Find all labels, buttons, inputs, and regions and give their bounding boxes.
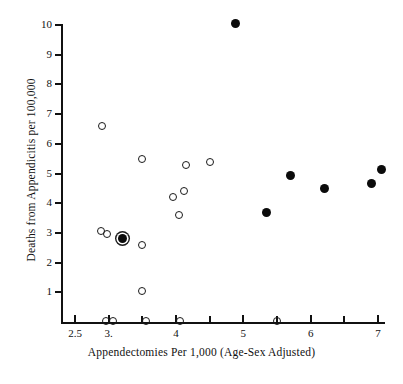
x-axis-tick [310,315,312,323]
data-point-open-circle [273,317,281,325]
data-point-open-circle [98,122,106,130]
y-axis-tick [55,291,62,293]
plot-area: 12345678910 2.53.4567 Appendectomies Per… [0,0,403,384]
x-axis-tick-label: 3. [89,327,129,339]
y-axis-tick-label-text: 10 [30,19,52,30]
x-axis-tick [377,315,379,323]
data-point-filled-circle [231,19,240,28]
y-axis-tick [55,24,62,26]
data-point-open-circle [206,158,214,166]
x-axis-tick-label: 7 [358,327,398,339]
x-axis-minor-tick [343,316,345,323]
data-point-open-circle [176,317,184,325]
data-point-open-circle [142,317,150,325]
y-axis-tick [55,143,62,145]
data-point-open-circle [109,317,117,325]
data-point-open-circle [138,155,146,163]
data-point-open-circle [182,161,190,169]
y-axis-tick [55,262,62,264]
y-axis-tick-label: 10 [26,19,52,30]
data-point-filled-circle [286,171,295,180]
x-axis-tick [242,315,244,323]
x-axis-tick [74,315,76,323]
data-point-open-circle [138,287,146,295]
data-point-filled-circle [367,179,376,188]
scatter-plot-figure: 12345678910 2.53.4567 Appendectomies Per… [0,0,403,384]
data-point-open-circle [169,193,177,201]
data-point-filled-circle [320,184,329,193]
data-point-filled-circle-with-open-ring [118,234,127,243]
x-axis-tick-label: 4 [156,327,196,339]
y-axis-tick [55,83,62,85]
data-point-open-circle [180,187,188,195]
y-axis-tick [55,202,62,204]
x-axis-origin-tick [61,315,63,323]
y-axis-tick [55,113,62,115]
x-axis-minor-tick [209,316,211,323]
data-point-open-circle [103,230,111,238]
y-axis-title: Deaths from Appendicitis per 100,000 [25,40,37,300]
data-point-filled-circle [262,208,271,217]
x-axis-title: Appendectomies Per 1,000 (Age-Sex Adjust… [0,346,403,358]
y-axis-tick [55,54,62,56]
x-axis-tick-label: 6 [291,327,331,339]
data-point-open-circle [138,241,146,249]
data-point-filled-circle [377,165,386,174]
y-axis-tick [55,232,62,234]
data-point-open-circle [175,211,183,219]
y-axis-tick [55,173,62,175]
x-axis-tick-label: 5 [223,327,263,339]
